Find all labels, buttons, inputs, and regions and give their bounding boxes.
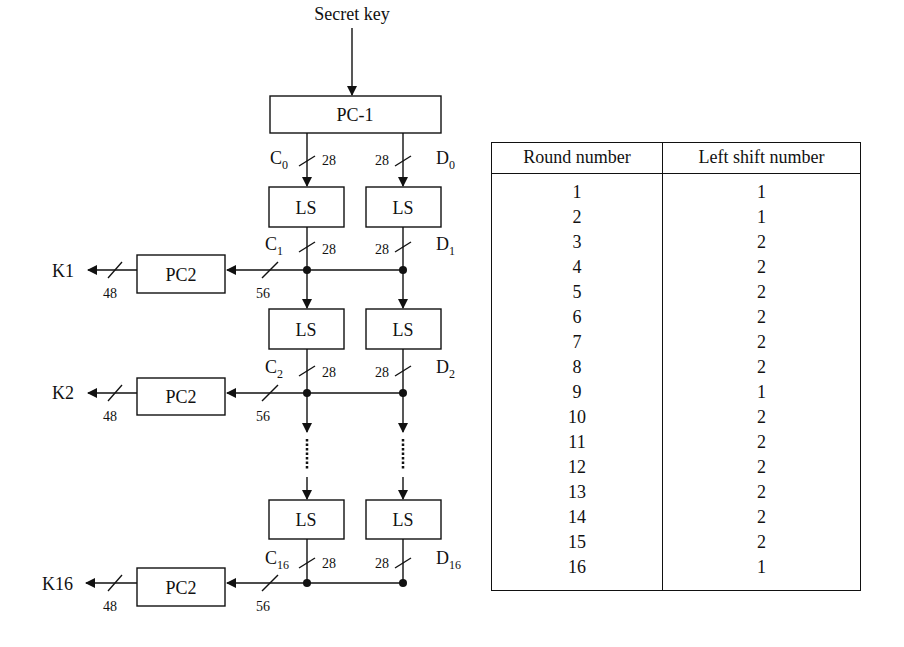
table-row: 102	[492, 405, 861, 430]
svg-text:LS: LS	[392, 320, 413, 340]
d2-label: D2	[436, 357, 455, 381]
table-row: 42	[492, 255, 861, 280]
key-width-16: 48	[103, 599, 117, 614]
table-row: 142	[492, 505, 861, 530]
c2-width: 28	[322, 365, 336, 380]
k2-label: K2	[52, 383, 74, 403]
svg-text:PC2: PC2	[165, 578, 196, 598]
table-header-row: Round number Left shift number	[492, 143, 861, 174]
pc1-label: PC-1	[336, 105, 373, 125]
d1-width: 28	[375, 242, 389, 257]
table-row: 21	[492, 205, 861, 230]
table-row: 91	[492, 380, 861, 405]
d1-label: D1	[436, 234, 455, 258]
left-shift-table: Round number Left shift number 11 21 32 …	[491, 142, 861, 591]
merge-width-2: 56	[256, 409, 270, 424]
svg-text:LS: LS	[295, 198, 316, 218]
d2-width: 28	[375, 365, 389, 380]
secret-key-label: Secret key	[314, 4, 389, 24]
table-row: 82	[492, 355, 861, 380]
ls-box-c-round1: LS	[269, 187, 344, 227]
merge-width-1: 56	[256, 286, 270, 301]
pc2-box-2: PC2	[137, 378, 225, 415]
pc2-box-1: PC2	[137, 255, 225, 293]
table-row: 52	[492, 280, 861, 305]
c2-label: C2	[265, 357, 283, 381]
table-row: 112	[492, 430, 861, 455]
c0-width: 28	[322, 153, 336, 168]
svg-text:PC2: PC2	[165, 265, 196, 285]
ls-box-c-round16: LS	[269, 500, 344, 539]
ls-box-d-round16: LS	[366, 500, 441, 539]
d16-label: D16	[436, 548, 461, 572]
table-row: 152	[492, 530, 861, 555]
svg-text:PC2: PC2	[165, 387, 196, 407]
key-width-2: 48	[103, 409, 117, 424]
c16-width: 28	[322, 556, 336, 571]
ls-box-c-round2: LS	[269, 309, 344, 349]
pc2-box-16: PC2	[137, 568, 225, 606]
svg-text:LS: LS	[295, 320, 316, 340]
pc1-box: PC-1	[270, 96, 441, 133]
ls-box-d-round1: LS	[366, 187, 441, 227]
key-width-1: 48	[103, 286, 117, 301]
table-row: 72	[492, 330, 861, 355]
table-row: 62	[492, 305, 861, 330]
k16-label: K16	[42, 574, 73, 594]
header-left-shift-number: Left shift number	[662, 143, 860, 174]
header-round-number: Round number	[492, 143, 663, 174]
c0-label: C0	[270, 148, 288, 172]
table-row: 161	[492, 555, 861, 591]
table-row: 132	[492, 480, 861, 505]
ls-box-d-round2: LS	[366, 309, 441, 349]
d0-width: 28	[375, 153, 389, 168]
svg-text:LS: LS	[392, 510, 413, 530]
svg-text:LS: LS	[392, 198, 413, 218]
table-row: 11	[492, 174, 861, 206]
c16-label: C16	[265, 548, 289, 572]
table-row: 122	[492, 455, 861, 480]
d0-label: D0	[436, 148, 455, 172]
svg-text:LS: LS	[295, 510, 316, 530]
table-row: 32	[492, 230, 861, 255]
merge-width-16: 56	[256, 599, 270, 614]
c1-width: 28	[322, 242, 336, 257]
d16-width: 28	[375, 556, 389, 571]
c1-label: C1	[265, 234, 283, 258]
k1-label: K1	[52, 261, 74, 281]
